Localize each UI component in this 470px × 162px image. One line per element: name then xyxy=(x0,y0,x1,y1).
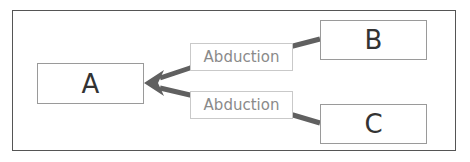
node-b-label: B xyxy=(365,25,383,55)
node-c: C xyxy=(320,104,427,144)
node-a: A xyxy=(37,63,144,104)
edge-label-text: Abduction xyxy=(204,48,280,66)
edge-label-c-a: Abduction xyxy=(190,91,293,119)
edge-label-text: Abduction xyxy=(204,96,280,114)
node-c-label: C xyxy=(364,109,382,139)
node-b: B xyxy=(320,20,427,60)
node-a-label: A xyxy=(82,69,100,99)
edge-label-b-a: Abduction xyxy=(190,43,293,71)
arrowhead-icon xyxy=(144,70,164,96)
